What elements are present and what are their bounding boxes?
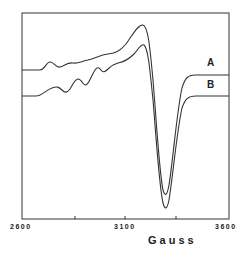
x-tick-label-2600: 2600 [10, 223, 32, 230]
x-tick-label-3600: 3600 [215, 223, 237, 230]
x-tick-label-3100: 3100 [114, 223, 136, 230]
epr-spectrum-chart: A B 2600 3100 3600 Gauss [0, 0, 252, 253]
series-b-label: B [207, 79, 214, 90]
series-a-curve [22, 25, 229, 194]
x-axis-title: Gauss [148, 234, 197, 246]
series-b-curve [22, 45, 229, 208]
series-a-label: A [207, 57, 214, 68]
